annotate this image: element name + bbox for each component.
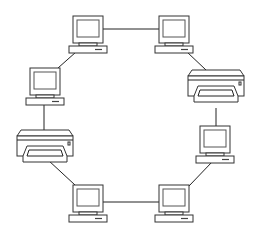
link-pc-bottom-left-printer-left: [48, 160, 75, 185]
computer-icon: [69, 16, 107, 53]
printer-icon: [188, 70, 244, 102]
printer-icon: [17, 130, 73, 162]
diagram-canvas: [0, 0, 259, 235]
link-pc-top-right-printer-right: [187, 52, 206, 70]
computer-icon: [69, 185, 107, 222]
link-pc-right-pc-bottom-right: [189, 162, 212, 186]
computer-icon: [196, 126, 234, 163]
computer-icon: [26, 68, 64, 105]
computer-icon: [155, 16, 193, 53]
ring-network-diagram: [0, 0, 259, 235]
link-pc-left-pc-top-left: [58, 52, 76, 68]
ring-connections: [44, 29, 216, 202]
computer-icon: [155, 185, 193, 222]
